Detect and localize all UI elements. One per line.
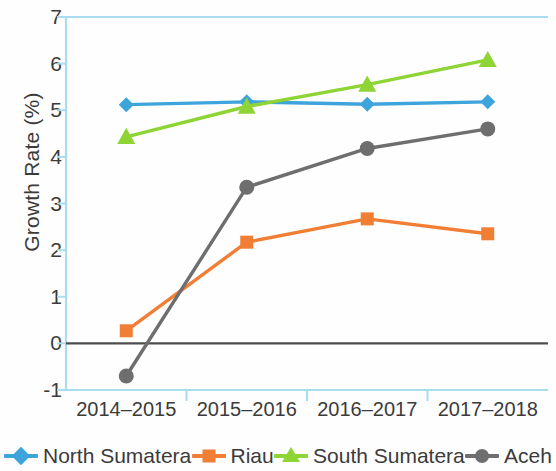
legend-label: South Sumatera xyxy=(313,444,465,468)
series-line xyxy=(126,219,488,331)
data-point-diamond xyxy=(360,97,375,112)
data-point-diamond xyxy=(119,97,134,112)
chart-legend: North SumateraRiauSouth SumateraAceh xyxy=(0,440,556,471)
legend-marker-diamond-icon xyxy=(4,447,38,465)
x-tick-label: 2014–2015 xyxy=(76,398,176,421)
legend-label: Aceh xyxy=(504,444,552,468)
legend-item-riau[interactable]: Riau xyxy=(192,444,274,468)
series-line xyxy=(126,129,488,376)
x-tick-label: 2016–2017 xyxy=(317,398,417,421)
legend-label: North Sumatera xyxy=(43,444,191,468)
data-point-square xyxy=(120,324,133,337)
legend-item-south-sumatera[interactable]: South Sumatera xyxy=(274,444,465,468)
series-south-sumatera xyxy=(117,51,497,144)
chart-figure: Growth Rate (%) -101234567 2014–20152015… xyxy=(0,0,556,471)
legend-marker-circle-icon xyxy=(465,447,499,465)
data-point-triangle xyxy=(479,51,497,67)
legend-marker-square-icon xyxy=(192,447,226,465)
data-point-diamond xyxy=(480,94,495,109)
legend-marker-triangle-icon xyxy=(274,447,308,465)
data-point-circle xyxy=(360,141,375,156)
data-point-square xyxy=(240,236,253,249)
data-point-circle xyxy=(119,369,134,384)
legend-item-aceh[interactable]: Aceh xyxy=(465,444,552,468)
series-line xyxy=(126,102,488,105)
data-point-square xyxy=(361,212,374,225)
series-line xyxy=(126,60,488,137)
x-tick-label: 2015–2016 xyxy=(197,398,297,421)
data-point-circle xyxy=(480,121,495,136)
series-riau xyxy=(120,212,495,337)
data-point-circle xyxy=(239,180,254,195)
data-point-square xyxy=(481,227,494,240)
legend-item-north-sumatera[interactable]: North Sumatera xyxy=(4,444,191,468)
legend-label: Riau xyxy=(231,444,274,468)
x-tick-label: 2017–2018 xyxy=(438,398,538,421)
